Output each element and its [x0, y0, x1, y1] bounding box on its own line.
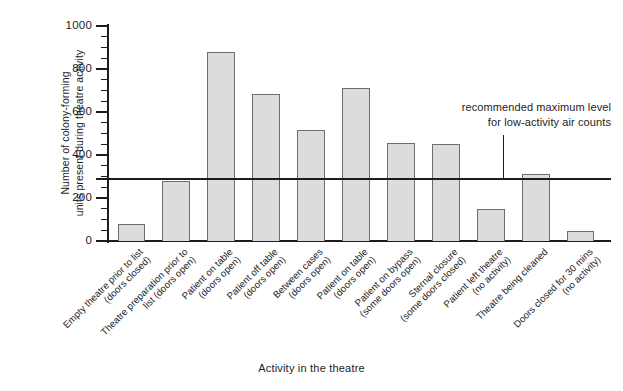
bar	[297, 130, 325, 241]
bar	[477, 209, 505, 241]
y-tick-minor	[101, 36, 107, 37]
bar-slot	[342, 26, 370, 241]
y-tick-major	[96, 197, 107, 198]
bar	[162, 181, 190, 241]
y-tick-minor	[101, 187, 107, 188]
threshold-annotation-line2: for low-activity air counts	[396, 115, 611, 130]
bar-slot	[297, 26, 325, 241]
y-tick-minor	[101, 101, 107, 102]
bar-slot	[387, 26, 415, 241]
annotation-leader-line	[503, 135, 504, 179]
threshold-line	[96, 178, 611, 180]
bar	[207, 52, 235, 241]
bar-slot	[567, 26, 595, 241]
threshold-annotation: recommended maximum level for low-activi…	[396, 100, 611, 130]
y-tick-minor	[101, 219, 107, 220]
x-tick-label-line: (no activity)	[489, 254, 603, 368]
bar-slot	[432, 26, 460, 241]
y-tick-minor	[101, 144, 107, 145]
y-tick-minor	[101, 90, 107, 91]
y-tick-minor	[101, 208, 107, 209]
bar-series	[109, 26, 603, 241]
y-tick-major	[96, 240, 107, 241]
y-tick-label: 0	[56, 235, 92, 247]
bar-slot	[162, 26, 190, 241]
bar-slot	[252, 26, 280, 241]
y-tick-minor	[101, 79, 107, 80]
y-tick-major	[96, 68, 107, 69]
bar	[432, 144, 460, 241]
bar	[567, 231, 595, 241]
bar-slot	[207, 26, 235, 241]
bar-chart: Number of colony-forming units present d…	[0, 0, 623, 391]
bar	[252, 94, 280, 241]
bar	[522, 174, 550, 241]
threshold-annotation-line1: recommended maximum level	[396, 100, 611, 115]
x-axis-tick-labels: Empty theatre prior to list(doors closed…	[109, 246, 603, 366]
bar-slot	[477, 26, 505, 241]
bar	[118, 224, 146, 241]
y-tick-major	[96, 154, 107, 155]
y-tick-label: 1000	[56, 20, 92, 32]
y-tick-minor	[101, 230, 107, 231]
y-tick-label: 600	[56, 106, 92, 118]
y-tick-label: 800	[56, 63, 92, 75]
y-tick-label: 200	[56, 192, 92, 204]
x-axis-title: Activity in the theatre	[0, 362, 623, 374]
bar	[387, 143, 415, 241]
bar-slot	[522, 26, 550, 241]
y-tick-minor	[101, 165, 107, 166]
y-tick-minor	[101, 58, 107, 59]
bar-slot	[118, 26, 146, 241]
y-tick-minor	[101, 47, 107, 48]
y-tick-major	[96, 111, 107, 112]
y-tick-major	[96, 25, 107, 26]
y-tick-minor	[101, 122, 107, 123]
y-tick-minor	[101, 133, 107, 134]
bar	[342, 88, 370, 241]
y-tick-label: 400	[56, 149, 92, 161]
